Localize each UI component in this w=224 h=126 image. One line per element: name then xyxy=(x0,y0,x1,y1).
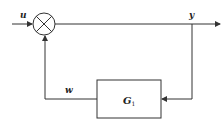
feedback-path-to-block xyxy=(162,24,192,99)
input-label-u: u xyxy=(20,10,27,20)
summing-junction xyxy=(33,13,55,35)
block-diagram: u y G1 w xyxy=(0,0,224,126)
feedback-label-w: w xyxy=(65,85,73,95)
output-label-y: y xyxy=(188,10,195,20)
